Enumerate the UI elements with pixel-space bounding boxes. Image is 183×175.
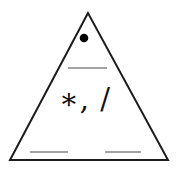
triangle-diagram-canvas: ∗, / [0, 0, 183, 175]
top-dot-icon [80, 34, 89, 43]
operators-label: ∗, / [59, 82, 111, 116]
fact-family-triangle-figure: ∗, / [0, 0, 183, 175]
